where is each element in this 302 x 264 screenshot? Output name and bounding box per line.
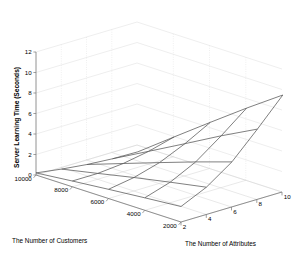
attributes-tick-label: 6 (233, 208, 237, 215)
z-tick-label: 4 (28, 130, 32, 137)
grid-floor (36, 145, 282, 222)
figure-container: 12 10 8 6 4 2 0 10000 8000 6000 4000 200… (0, 0, 302, 264)
z-tick-label: 6 (28, 110, 32, 117)
customers-axis-title: The Number of Customers (12, 237, 87, 244)
z-axis-title: Server Learning Time (Seconds) (13, 67, 21, 168)
grid-right-wall (137, 22, 282, 192)
z-tick-label: 8 (28, 89, 32, 96)
z-axis-tick-labels: 12 10 8 6 4 2 0 (25, 48, 32, 178)
customers-tick-label: 4000 (127, 210, 141, 217)
customers-tick-label: 8000 (54, 186, 68, 193)
z-tick-label: 10 (25, 69, 32, 76)
attributes-tick-label: 4 (208, 215, 212, 222)
customers-tick-label: 6000 (91, 198, 105, 205)
grid-left-wall (36, 22, 137, 175)
attributes-tick-label: 8 (259, 200, 263, 207)
customers-axis-tick-labels: 10000 8000 6000 4000 2000 (15, 175, 178, 229)
attributes-tick-label: 2 (183, 223, 187, 230)
attributes-axis-tick-labels: 2 4 6 8 10 (183, 193, 291, 230)
attributes-axis-ticks (181, 192, 282, 225)
mesh-surface (36, 95, 283, 207)
z-tick-label: 2 (28, 151, 32, 158)
surface-plot: 12 10 8 6 4 2 0 10000 8000 6000 4000 200… (0, 0, 302, 264)
attributes-tick-label: 10 (284, 193, 291, 200)
attributes-axis-title: The Number of Attributes (185, 240, 256, 247)
customers-tick-label: 2000 (163, 222, 177, 229)
z-tick-label: 12 (25, 48, 32, 55)
customers-tick-label: 10000 (15, 175, 33, 182)
